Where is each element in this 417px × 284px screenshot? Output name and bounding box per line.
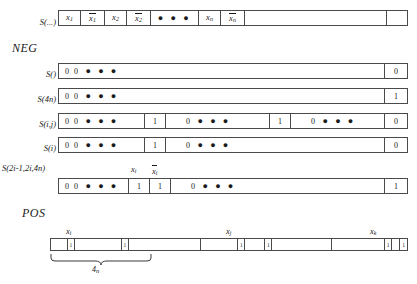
row-label-s-ij: S(i,j)	[8, 120, 56, 129]
brace-label-4n: 4n	[92, 266, 99, 274]
ellipsis-dots: ● ● ●	[158, 14, 191, 23]
neg-seg-one-not-xi: 1	[150, 179, 171, 193]
annotation-pos-xi: xi	[66, 227, 71, 236]
bits-dots: ● ● ●	[86, 67, 119, 76]
top-row-bar: x1 x1 x2 x2 ● ● ● xn xn	[58, 10, 408, 26]
neg-seg-zeros-mid: 0 ● ● ●	[166, 114, 270, 128]
neg-seg-zeros-tail: 0 ● ● ●	[171, 179, 385, 193]
row-label-s-4n: S(4n)	[8, 95, 56, 104]
pos-cell-blank	[129, 239, 201, 250]
neg-bar-s-empty: 0 0 ● ● ● 0	[58, 63, 408, 79]
pos-cell-blank	[332, 239, 385, 250]
brace-label-text: 4n	[92, 265, 99, 274]
neg-bar-s-4n: 0 0 ● ● ● 1	[58, 88, 408, 104]
brace-4n	[50, 252, 152, 265]
annotation-xi: xi	[131, 165, 136, 174]
top-cell-blank-wide	[245, 11, 387, 25]
top-cell-blank-end	[387, 11, 407, 25]
bits-dots: ● ● ●	[323, 117, 356, 126]
terminal-bit: 1	[394, 182, 398, 191]
neg-seg-terminal: 0	[385, 138, 407, 152]
terminal-bit: 0	[394, 141, 398, 150]
top-cell-notx2: x2	[127, 11, 151, 25]
top-cell-x2: x2	[105, 11, 127, 25]
bits-dots: ● ● ●	[86, 92, 119, 101]
neg-seg-zeros-tail: 0 ● ● ●	[166, 138, 385, 152]
bit-one: 1	[137, 182, 141, 191]
bits-dots: ● ● ●	[86, 141, 119, 150]
row-label-s-i: S(i)	[8, 144, 56, 153]
var-xi: xi	[131, 164, 136, 174]
neg-seg-one: 1	[145, 114, 166, 128]
top-cell-ellipsis: ● ● ●	[151, 11, 199, 25]
bits-text: 0	[311, 117, 317, 126]
bits-dots: ● ● ●	[86, 182, 119, 191]
pos-cell-blank	[75, 239, 122, 250]
pos-cell-one: 1	[68, 239, 75, 250]
bits-text: 0 0	[65, 182, 80, 191]
neg-seg-zeros: 0 0 ● ● ●	[59, 179, 129, 193]
bit-one: 1	[153, 117, 157, 126]
brace-icon	[50, 253, 152, 266]
neg-seg-terminal: 0	[385, 64, 407, 78]
terminal-bit: 0	[394, 67, 398, 76]
pos-cell-blank	[51, 239, 68, 250]
bits-dots: ● ● ●	[198, 117, 231, 126]
pos-cell-blank	[272, 239, 332, 250]
bits-dots: ● ● ●	[86, 117, 119, 126]
neg-bar-s-2i: 0 0 ● ● ● 1 1 0 ● ● ● 1	[58, 178, 408, 194]
neg-seg-one: 1	[270, 114, 291, 128]
neg-seg-one-xi: 1	[129, 179, 150, 193]
neg-seg-terminal: 0	[385, 114, 407, 128]
pos-row-bar: 1 1 1 1 1 1	[50, 238, 408, 251]
var-not-x1: x1	[89, 13, 96, 24]
top-cell-x1: x1	[59, 11, 81, 25]
bit-one: 1	[153, 141, 157, 150]
bits-text: 0 0	[65, 117, 80, 126]
row-label-top: S(...)	[8, 18, 56, 27]
bits-dots: ● ● ●	[198, 141, 231, 150]
neg-seg-zeros: 0 0 ● ● ●	[59, 114, 145, 128]
neg-seg-zeros: 0 0 ● ● ●	[59, 64, 385, 78]
section-heading-neg: NEG	[12, 41, 38, 56]
neg-seg-terminal: 1	[385, 89, 407, 103]
pos-cell-one: 1	[238, 239, 245, 250]
var-not-xi: xi	[152, 165, 157, 176]
pos-cell-one: 1	[265, 239, 272, 250]
row-label-s-2i: S(2i-1,2i,4n)	[2, 164, 74, 173]
var-pos-xi: xi	[66, 226, 71, 236]
bits-text: 0 0	[65, 92, 80, 101]
neg-seg-zeros: 0 0 ● ● ●	[59, 138, 145, 152]
neg-seg-terminal: 1	[385, 179, 407, 193]
var-pos-xj: xj	[226, 226, 231, 236]
bits-dots: ● ● ●	[203, 182, 236, 191]
annotation-pos-xk: xk	[370, 227, 376, 236]
bits-text: 0	[186, 117, 192, 126]
var-x1: x1	[66, 13, 73, 22]
bit-one: 1	[158, 182, 162, 191]
annotation-not-xi: xi	[152, 165, 157, 176]
var-x2: x2	[112, 13, 119, 22]
bits-text: 0	[186, 141, 192, 150]
bit-one: 1	[278, 117, 282, 126]
annotation-pos-xj: xj	[226, 227, 231, 236]
top-cell-xn: xn	[199, 11, 221, 25]
neg-bar-s-i: 0 0 ● ● ● 1 0 ● ● ● 0	[58, 137, 408, 153]
terminal-bit: 1	[394, 92, 398, 101]
pos-cell-blank	[392, 239, 400, 250]
pos-cell-one: 1	[122, 239, 129, 250]
neg-bar-s-ij: 0 0 ● ● ● 1 0 ● ● ● 1 0 ● ● ● 0	[58, 113, 408, 129]
terminal-bit: 0	[394, 117, 398, 126]
neg-seg-zeros: 0 0 ● ● ●	[59, 89, 385, 103]
top-cell-notx1: x1	[81, 11, 105, 25]
row-label-s-empty: S()	[8, 70, 56, 79]
top-cell-notxn: xn	[221, 11, 245, 25]
var-not-xn: xn	[229, 13, 236, 24]
var-pos-xk: xk	[370, 226, 376, 236]
section-heading-pos: POS	[22, 206, 46, 221]
neg-seg-one: 1	[145, 138, 166, 152]
figure-canvas: S(...) x1 x1 x2 x2 ● ● ● xn xn NEG S() 0…	[0, 0, 417, 284]
var-xn: xn	[206, 13, 213, 22]
pos-cell-one: 1	[400, 239, 407, 250]
neg-seg-zeros-tail: 0 ● ● ●	[291, 114, 385, 128]
